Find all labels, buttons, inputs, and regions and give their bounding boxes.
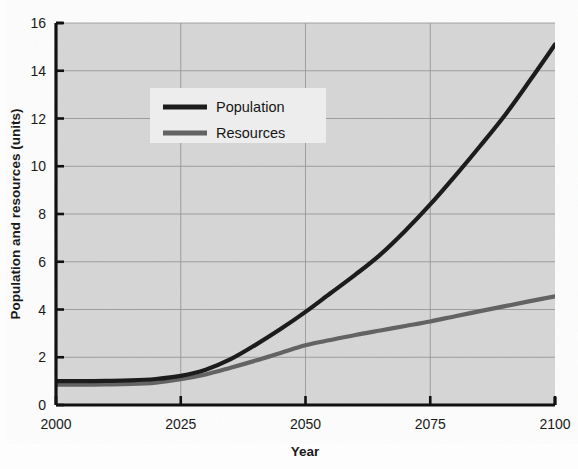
legend-label-resources: Resources	[216, 125, 285, 141]
y-tick-label: 8	[38, 206, 46, 222]
y-tick-label: 10	[30, 158, 46, 174]
x-tick-label: 2000	[40, 416, 71, 432]
x-axis-title: Year	[291, 444, 320, 459]
line-chart: 0246810121416 20002025205020752100 Popul…	[0, 0, 578, 469]
chart-legend: PopulationResources	[150, 88, 326, 143]
x-tick-label: 2100	[539, 416, 570, 432]
x-tick-label: 2025	[165, 416, 196, 432]
y-tick-label: 4	[38, 302, 46, 318]
y-tick-label: 12	[30, 111, 46, 127]
y-tick-label: 14	[30, 63, 46, 79]
chart-figure: 0246810121416 20002025205020752100 Popul…	[0, 0, 578, 469]
x-tick-label: 2075	[415, 416, 446, 432]
y-axis-title: Population and resources (units)	[8, 109, 23, 320]
y-tick-label: 2	[38, 349, 46, 365]
x-tick-label: 2050	[290, 416, 321, 432]
y-tick-label: 0	[38, 397, 46, 413]
y-tick-label: 6	[38, 254, 46, 270]
y-tick-label: 16	[30, 15, 46, 31]
legend-label-population: Population	[216, 99, 285, 115]
